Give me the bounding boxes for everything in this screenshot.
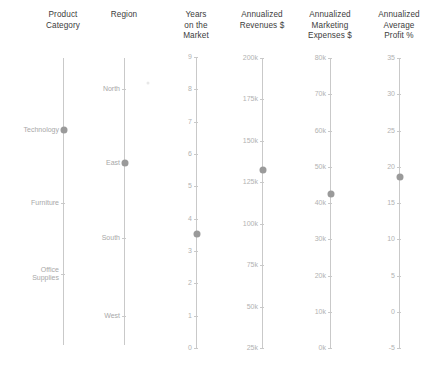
tick-label-annualized-revenues-4: 100k <box>202 220 258 228</box>
tick-label-years-on-the-market-7: 2 <box>136 279 192 287</box>
data-point-years-on-the-market[interactable] <box>193 231 200 238</box>
data-point-annualized-revenues[interactable] <box>259 167 266 174</box>
tick-label-annualized-average-profit-5: 10 <box>339 235 395 243</box>
tick-mark-years-on-the-market-3 <box>194 154 198 155</box>
tick-label-annualized-revenues-0: 200k <box>202 54 258 62</box>
tick-label-annualized-average-profit-0: 35 <box>339 54 395 62</box>
tick-mark-region-3 <box>122 316 126 317</box>
axis-line-annualized-revenues <box>262 58 263 348</box>
tick-label-annualized-revenues-2: 150k <box>202 137 258 145</box>
tick-mark-years-on-the-market-5 <box>194 219 198 220</box>
tick-label-years-on-the-market-2: 7 <box>136 118 192 126</box>
parallel-coordinates-chart: Product CategoryTechnologyFurnitureOffic… <box>0 0 436 369</box>
tick-mark-annualized-revenues-3 <box>260 182 264 183</box>
tick-label-annualized-marketing-expenses-8: 0k <box>270 344 326 352</box>
cursor-dot <box>147 82 150 85</box>
tick-label-annualized-marketing-expenses-3: 50k <box>270 163 326 171</box>
tick-mark-annualized-revenues-0 <box>260 58 264 59</box>
tick-label-annualized-average-profit-4: 15 <box>339 199 395 207</box>
tick-label-years-on-the-market-6: 3 <box>136 247 192 255</box>
tick-label-region-0: North <box>64 85 120 93</box>
tick-mark-annualized-marketing-expenses-6 <box>328 276 332 277</box>
tick-mark-region-2 <box>122 238 126 239</box>
tick-label-years-on-the-market-9: 0 <box>136 344 192 352</box>
tick-label-region-2: South <box>64 234 120 242</box>
tick-mark-annualized-revenues-5 <box>260 265 264 266</box>
tick-label-product-category-1: Furniture <box>3 199 59 207</box>
tick-label-annualized-marketing-expenses-2: 60k <box>270 127 326 135</box>
data-point-annualized-marketing-expenses[interactable] <box>327 191 334 198</box>
tick-mark-annualized-marketing-expenses-4 <box>328 203 332 204</box>
tick-mark-years-on-the-market-6 <box>194 251 198 252</box>
tick-mark-annualized-revenues-4 <box>260 224 264 225</box>
tick-mark-years-on-the-market-8 <box>194 316 198 317</box>
tick-label-annualized-revenues-6: 50k <box>202 303 258 311</box>
tick-label-annualized-marketing-expenses-4: 40k <box>270 199 326 207</box>
tick-label-years-on-the-market-4: 5 <box>136 182 192 190</box>
tick-mark-annualized-marketing-expenses-1 <box>328 94 332 95</box>
tick-mark-annualized-marketing-expenses-0 <box>328 58 332 59</box>
tick-label-annualized-marketing-expenses-0: 80k <box>270 54 326 62</box>
axis-line-years-on-the-market <box>196 57 197 348</box>
tick-label-annualized-marketing-expenses-7: 10k <box>270 308 326 316</box>
tick-label-annualized-revenues-1: 175k <box>202 95 258 103</box>
tick-mark-region-0 <box>122 89 126 90</box>
axis-annualized-average-profit[interactable]: Annualized Average Profit %3530252015105… <box>339 0 436 369</box>
tick-mark-annualized-average-profit-2 <box>397 131 401 132</box>
tick-label-annualized-marketing-expenses-5: 30k <box>270 235 326 243</box>
tick-mark-years-on-the-market-0 <box>194 57 198 58</box>
tick-label-annualized-revenues-5: 75k <box>202 261 258 269</box>
data-point-region[interactable] <box>121 160 128 167</box>
tick-mark-annualized-average-profit-0 <box>397 58 401 59</box>
tick-label-years-on-the-market-1: 8 <box>136 85 192 93</box>
tick-mark-years-on-the-market-2 <box>194 122 198 123</box>
tick-mark-annualized-average-profit-4 <box>397 203 401 204</box>
tick-label-annualized-average-profit-8: -5 <box>339 344 395 352</box>
tick-label-annualized-average-profit-7: 0 <box>339 308 395 316</box>
tick-label-years-on-the-market-5: 4 <box>136 215 192 223</box>
tick-mark-annualized-average-profit-1 <box>397 94 401 95</box>
tick-mark-years-on-the-market-9 <box>194 348 198 349</box>
tick-label-annualized-marketing-expenses-6: 20k <box>270 272 326 280</box>
tick-mark-annualized-revenues-7 <box>260 348 264 349</box>
tick-mark-years-on-the-market-1 <box>194 89 198 90</box>
axis-line-region <box>124 58 125 345</box>
tick-mark-annualized-average-profit-7 <box>397 312 401 313</box>
tick-label-annualized-average-profit-1: 30 <box>339 90 395 98</box>
axis-title-annualized-average-profit: Annualized Average Profit % <box>339 10 436 42</box>
tick-label-years-on-the-market-0: 9 <box>136 53 192 61</box>
tick-mark-annualized-marketing-expenses-3 <box>328 167 332 168</box>
tick-mark-annualized-revenues-6 <box>260 307 264 308</box>
tick-mark-annualized-average-profit-3 <box>397 167 401 168</box>
tick-label-years-on-the-market-3: 6 <box>136 150 192 158</box>
tick-mark-annualized-revenues-2 <box>260 141 264 142</box>
tick-mark-years-on-the-market-4 <box>194 186 198 187</box>
tick-mark-annualized-average-profit-8 <box>397 348 401 349</box>
tick-label-years-on-the-market-8: 1 <box>136 312 192 320</box>
tick-label-region-1: East <box>64 159 120 167</box>
tick-label-annualized-average-profit-2: 25 <box>339 127 395 135</box>
tick-label-region-3: West <box>64 312 120 320</box>
tick-label-product-category-0: Technology <box>3 126 59 134</box>
tick-label-annualized-revenues-7: 25k <box>202 344 258 352</box>
tick-mark-annualized-average-profit-6 <box>397 276 401 277</box>
tick-mark-annualized-revenues-1 <box>260 99 264 100</box>
tick-mark-annualized-marketing-expenses-2 <box>328 131 332 132</box>
tick-mark-years-on-the-market-7 <box>194 283 198 284</box>
tick-label-annualized-marketing-expenses-1: 70k <box>270 90 326 98</box>
tick-label-annualized-revenues-3: 125k <box>202 178 258 186</box>
tick-mark-annualized-average-profit-5 <box>397 239 401 240</box>
tick-mark-annualized-marketing-expenses-8 <box>328 348 332 349</box>
tick-mark-annualized-marketing-expenses-5 <box>328 239 332 240</box>
tick-label-annualized-average-profit-3: 20 <box>339 163 395 171</box>
tick-mark-annualized-marketing-expenses-7 <box>328 312 332 313</box>
tick-label-annualized-average-profit-6: 5 <box>339 272 395 280</box>
data-point-annualized-average-profit[interactable] <box>396 174 403 181</box>
tick-label-product-category-2: Office Supplies <box>3 266 59 282</box>
